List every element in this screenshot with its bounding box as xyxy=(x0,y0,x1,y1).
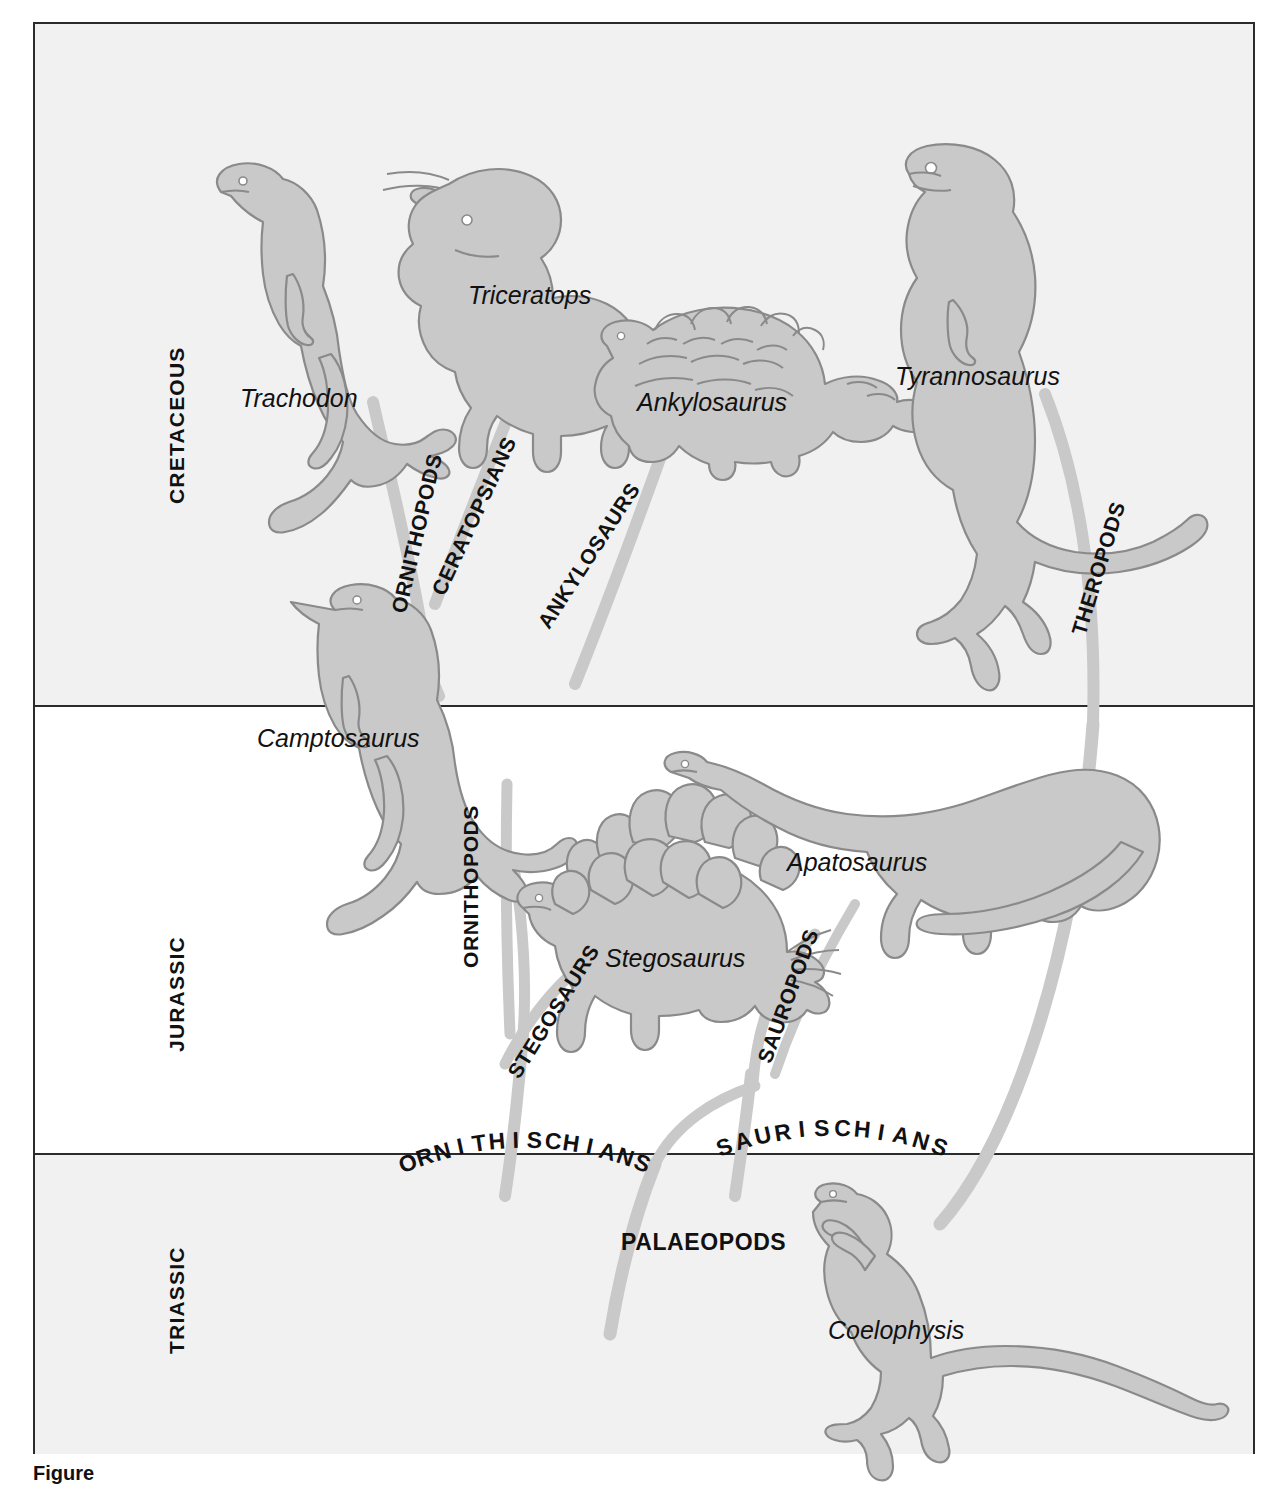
genus-label-apatosaurus: Apatosaurus xyxy=(787,848,927,877)
genus-label-ankylosaurus: Ankylosaurus xyxy=(637,388,787,417)
clade-label-palaeopods: PALAEOPODS xyxy=(621,1229,786,1256)
genus-label-triceratops: Triceratops xyxy=(468,281,591,310)
arc-char: H xyxy=(852,1116,871,1144)
arc-char: C xyxy=(543,1128,562,1156)
branch-ornithopods-jurassic xyxy=(506,784,510,1034)
genus-label-trachodon: Trachodon xyxy=(240,384,358,413)
arc-char: I xyxy=(512,1127,519,1154)
diagram-frame: .sil{fill:#c9c9c9;stroke:#8a8a8a;stroke-… xyxy=(33,22,1255,1454)
silhouette-camptosaurus xyxy=(291,584,577,934)
arc-char: S xyxy=(526,1127,542,1154)
arc-char: H xyxy=(488,1128,507,1156)
figure-page: .sil{fill:#c9c9c9;stroke:#8a8a8a;stroke-… xyxy=(0,0,1282,1493)
arc-char: R xyxy=(772,1118,793,1147)
period-label-cretaceous: CRETACEOUS xyxy=(165,347,189,504)
arc-char: S xyxy=(814,1115,830,1142)
period-label-triassic: TRIASSIC xyxy=(165,1246,189,1354)
genus-label-tyrannosaurus: Tyrannosaurus xyxy=(895,362,1060,391)
arc-char: C xyxy=(833,1115,850,1143)
genus-label-camptosaurus: Camptosaurus xyxy=(257,724,420,753)
period-label-jurassic: JURASSIC xyxy=(165,936,189,1052)
genus-label-coelophysis: Coelophysis xyxy=(828,1316,964,1345)
figure-caption: Figure xyxy=(33,1462,94,1485)
genus-label-stegosaurus: Stegosaurus xyxy=(605,944,745,973)
clade-label-ornithopods-jurassic: ORNITHOPODS xyxy=(459,805,483,968)
